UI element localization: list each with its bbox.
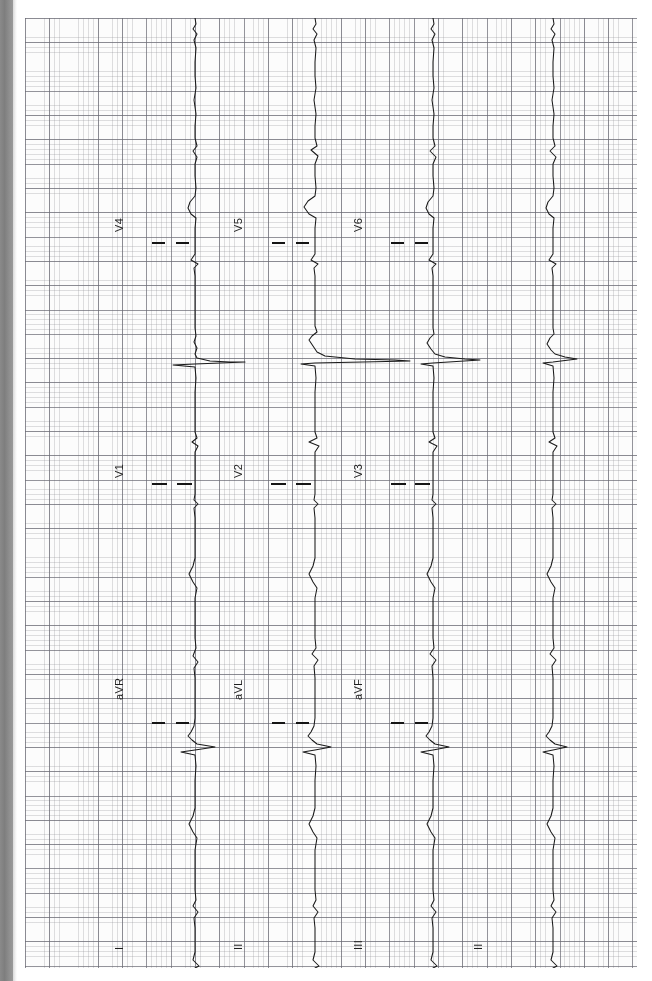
lead-label-V2: V2 (232, 464, 244, 478)
lead-label-II: II (232, 943, 244, 950)
calibration-tick (391, 242, 404, 244)
calibration-tick (415, 483, 430, 485)
scanner-edge-strip (0, 0, 13, 981)
lead-label-II-rhythm: II (472, 943, 484, 950)
calibration-tick (296, 242, 309, 244)
lead-label-I: I (113, 947, 125, 950)
ecg-trace-V5 (301, 18, 410, 968)
lead-label-aVF: aVF (352, 679, 364, 700)
lead-label-aVL: aVL (232, 680, 244, 700)
calibration-tick (152, 722, 165, 724)
calibration-tick (152, 242, 165, 244)
ecg-trace-layer (25, 18, 637, 968)
calibration-tick (272, 722, 285, 724)
lead-label-V5: V5 (232, 218, 244, 232)
ecg-trace-V4 (173, 18, 245, 968)
calibration-tick (271, 483, 286, 485)
calibration-tick (415, 722, 428, 724)
calibration-tick (176, 722, 189, 724)
paper-top-margin (17, 0, 652, 18)
ecg-trace-II-rhythm (543, 18, 577, 968)
lead-label-V4: V4 (113, 218, 125, 232)
calibration-tick (391, 722, 404, 724)
calibration-tick (272, 242, 285, 244)
lead-label-V6: V6 (352, 218, 364, 232)
calibration-tick (176, 242, 189, 244)
calibration-tick (177, 483, 192, 485)
lead-label-III: III (352, 940, 364, 950)
calibration-tick (296, 483, 311, 485)
lead-label-V3: V3 (352, 464, 364, 478)
ecg-page: V4V5V6V1V2V3aVRaVLaVFIIIIIIII (0, 0, 652, 981)
calibration-tick (152, 483, 167, 485)
lead-label-aVR: aVR (113, 678, 125, 700)
calibration-tick (296, 722, 309, 724)
calibration-tick (391, 483, 406, 485)
ecg-trace-V6 (421, 18, 480, 968)
ecg-paper: V4V5V6V1V2V3aVRaVLaVFIIIIIIII (25, 18, 637, 968)
calibration-tick (415, 242, 428, 244)
scanner-edge-shadow (13, 0, 17, 981)
paper-bottom-margin (17, 968, 652, 981)
paper-right-margin (637, 0, 652, 981)
lead-label-V1: V1 (113, 464, 125, 478)
